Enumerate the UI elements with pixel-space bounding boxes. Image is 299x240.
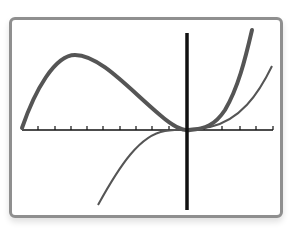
thin-cubic-curve xyxy=(98,66,272,205)
thick-cubic-curve xyxy=(22,30,252,130)
x-axis xyxy=(22,126,273,130)
graph-plot xyxy=(0,0,299,240)
